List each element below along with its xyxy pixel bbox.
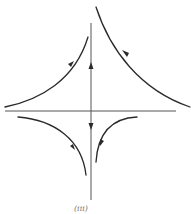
axis-down-arrow-icon xyxy=(89,123,94,130)
trajectory-arrow-icon xyxy=(100,139,104,146)
trajectory-arrow-icon xyxy=(122,50,129,57)
trajectory-lower-left xyxy=(18,117,86,175)
figure-caption: (iii) xyxy=(74,204,88,213)
phase-portrait xyxy=(0,0,191,214)
axis-up-arrow-icon xyxy=(89,62,94,69)
trajectory-upper-left xyxy=(5,37,88,107)
trajectory-lower-right xyxy=(96,117,137,162)
trajectory-upper-right xyxy=(96,7,190,107)
